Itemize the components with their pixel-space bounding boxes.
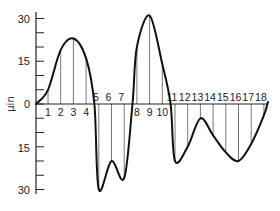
ordinate-label: 18 — [255, 91, 267, 103]
ordinate-label: 1 — [45, 106, 51, 118]
y-tick-label: 15 — [18, 142, 30, 154]
ordinate-label: 12 — [179, 91, 191, 103]
profile-curve — [36, 15, 268, 191]
ordinate-label: 3 — [70, 106, 76, 118]
ordinate-label: 9 — [147, 106, 153, 118]
ordinate-label: 17 — [242, 91, 254, 103]
ordinate-label: 8 — [134, 106, 140, 118]
ordinate-label: 10 — [156, 106, 168, 118]
ordinate-label: 13 — [192, 91, 204, 103]
ordinate-label: 7 — [118, 91, 124, 103]
ordinate-label: 14 — [204, 91, 216, 103]
y-tick-label: 30 — [18, 13, 30, 25]
y-tick-label: 15 — [18, 55, 30, 67]
y-tick-label: 30 — [18, 184, 30, 196]
ordinate-label: 4 — [83, 106, 89, 118]
ordinate-label: 6 — [106, 91, 112, 103]
ordinate-label: 16 — [230, 91, 242, 103]
ordinate-label: 2 — [58, 106, 64, 118]
y-axis-unit-label: μin — [5, 96, 16, 111]
ordinate-label: 15 — [217, 91, 229, 103]
profile-chart: 30 15 0 15 30 μin 1234567891011121314151… — [0, 0, 280, 211]
y-tick-label: 0 — [24, 98, 30, 110]
